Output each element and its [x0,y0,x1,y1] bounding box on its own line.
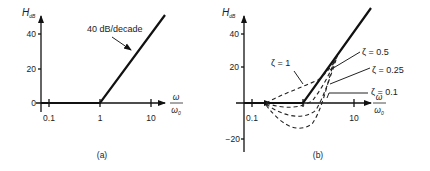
x-tick-label-b: 0.1 [246,113,258,123]
zeta-label-1: ζ = 1 [271,58,290,68]
panel-b: HdB 40 20 −20 0.1 10 ω ω0 ζ = 1 ζ = 0.5 … [222,7,404,160]
svg-text:ω: ω [173,92,180,102]
leader-zeta-0.25 [330,68,370,84]
y-tick-label-b: −20 [226,134,241,144]
leader-zeta-1 [294,71,303,84]
y-tick-label-a: 20 [27,64,37,74]
asymptote-line-b [244,8,371,103]
leader-zeta-0.1 [327,93,368,98]
x-tick-label-b: 10 [349,113,359,123]
caption-a: (a) [97,150,108,160]
slope-annotation: 40 dB/decade [87,24,143,34]
caption-b: (b) [313,150,324,160]
y-label-a: HdB [22,7,36,19]
zeta-label-0.25: ζ = 0.25 [372,65,404,75]
y-tick-label-a: 0 [31,98,36,108]
y-tick-label-b: 40 [230,29,240,39]
y-tick-label-a: 40 [27,29,37,39]
figure-canvas: HdB 40 20 0 0.1 1 10 ω ω0 40 dB/decade (… [0,0,430,171]
y-label-b: HdB [222,7,236,19]
svg-text:ω0: ω0 [171,105,181,116]
x-tick-label-a: 10 [146,113,156,123]
zeta-label-0.5: ζ = 0.5 [362,47,389,57]
curve-zeta-0.25 [266,60,336,116]
x-tick-label-a: 0.1 [43,113,55,123]
x-tick-label-a: 1 [98,113,103,123]
slope-pointer-arrow-icon [112,37,131,50]
y-tick-label-b: 20 [230,62,240,72]
x-label-a: ω ω0 [170,92,183,116]
panel-a: HdB 40 20 0 0.1 1 10 ω ω0 40 dB/decade (… [22,7,183,160]
svg-text:ω0: ω0 [374,105,384,116]
zeta-label-0.1: ζ = 0.1 [371,87,398,97]
